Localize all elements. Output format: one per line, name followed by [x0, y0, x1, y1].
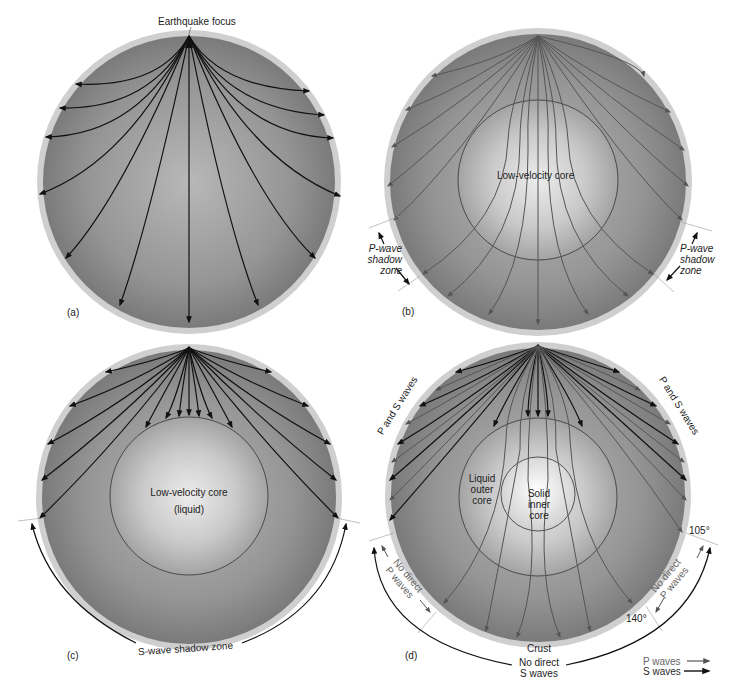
- panel-label-c: (c): [67, 650, 79, 661]
- boundary-105-left: [369, 533, 394, 541]
- no-direct-s-waves-label: No direct S waves: [506, 657, 572, 679]
- panel-label-d: (d): [405, 650, 417, 661]
- legend-s-waves-label: S waves: [643, 666, 681, 677]
- seismic-wave-diagram: [0, 0, 738, 696]
- crust-label: Crust: [519, 643, 559, 654]
- earthquake-focus-label: Earthquake focus: [158, 16, 236, 27]
- p-wave-shadow-zone-left-label: P-wave shadow zone: [362, 243, 402, 276]
- low-velocity-core-label: Low-velocity core: [497, 170, 574, 181]
- low-velocity-core-liquid-label: Low-velocity core (liquid): [140, 487, 238, 515]
- angle-140-label: 140°: [626, 613, 647, 624]
- liquid-outer-core-label: Liquid outer core: [462, 473, 502, 506]
- angle-105-label: 105°: [689, 525, 710, 536]
- shadow-boundary-line: [681, 222, 712, 231]
- panel-a: [37, 27, 341, 334]
- legend: [684, 661, 709, 671]
- solid-inner-core-label: Solid inner core: [519, 488, 559, 521]
- panel-b: [369, 28, 712, 336]
- panel-label-b: (b): [402, 306, 414, 317]
- panel-label-a: (a): [67, 307, 79, 318]
- p-wave-shadow-zone-right-label: P-wave shadow zone: [680, 243, 714, 276]
- shadow-boundary-line: [654, 274, 674, 292]
